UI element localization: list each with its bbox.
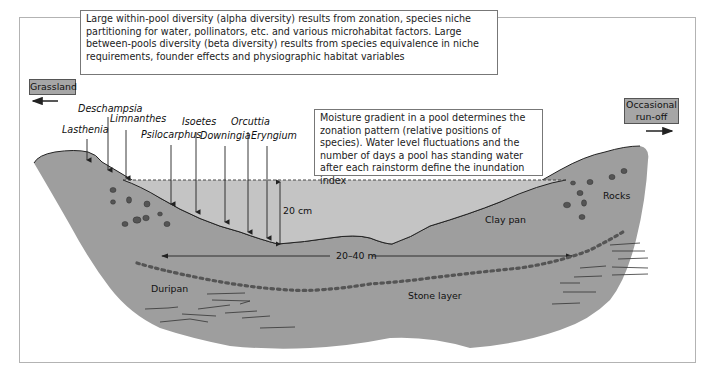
rocks-label: Rocks <box>603 190 630 201</box>
moisture-note-text: Moisture gradient in a pool determines t… <box>320 112 525 186</box>
stone-layer-label: Stone layer <box>408 290 462 301</box>
moisture-gradient-note: Moisture gradient in a pool determines t… <box>314 109 543 176</box>
species-lasthenia: Lasthenia <box>62 124 109 135</box>
runoff-tag: Occasional run-off <box>624 98 679 124</box>
width-label: 20–40 m <box>336 250 377 261</box>
clay-pan-label: Clay pan <box>485 214 526 225</box>
species-isoetes: Isoetes <box>182 116 216 127</box>
alpha-beta-note-text: Large within-pool diversity (alpha diver… <box>86 13 479 62</box>
species-downingia: Downingia <box>200 130 251 141</box>
species-limnanthes: Limnanthes <box>110 113 166 124</box>
duripan-label: Duripan <box>151 283 188 294</box>
species-orcuttia: Orcuttia <box>231 116 270 127</box>
grassland-label: Grassland <box>30 81 77 92</box>
species-eryngium: Eryngium <box>251 130 297 141</box>
alpha-beta-diversity-note: Large within-pool diversity (alpha diver… <box>80 10 498 75</box>
grassland-tag: Grassland <box>29 79 76 95</box>
runoff-label-2: run-off <box>636 111 668 122</box>
depth-label: 20 cm <box>283 205 312 216</box>
runoff-label-1: Occasional <box>626 99 677 110</box>
species-psilocarphus: Psilocarphus <box>141 129 201 140</box>
